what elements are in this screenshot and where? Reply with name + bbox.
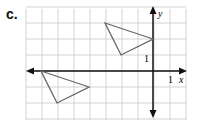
coordinate-diagram: c. y x 1 1 xyxy=(0,0,198,128)
y-tick-label: 1 xyxy=(144,53,149,64)
coordinate-plane: y x 1 1 xyxy=(0,0,198,128)
y-axis-label: y xyxy=(157,8,163,19)
x-axis-left-arrow-icon xyxy=(26,68,34,75)
x-axis-label: x xyxy=(178,74,184,85)
y-axis-down-arrow-icon xyxy=(150,110,157,118)
x-tick-label: 1 xyxy=(168,74,173,85)
